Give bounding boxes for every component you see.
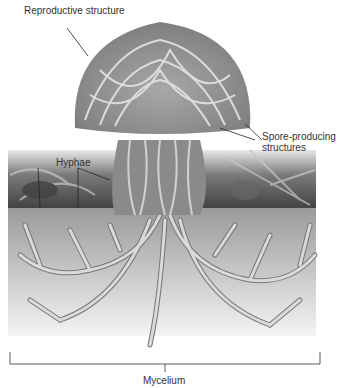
label-reproductive-structure: Reproductive structure	[24, 5, 125, 16]
label-hyphae: Hyphae	[56, 157, 90, 168]
label-mycelium: Mycelium	[143, 375, 185, 386]
mycelium-bracket	[10, 352, 320, 372]
cap	[75, 22, 251, 134]
fungus-diagram	[0, 0, 338, 388]
label-spore-producing-2: structures	[262, 142, 306, 153]
label-spore-producing-1: Spore-producing	[262, 131, 336, 142]
